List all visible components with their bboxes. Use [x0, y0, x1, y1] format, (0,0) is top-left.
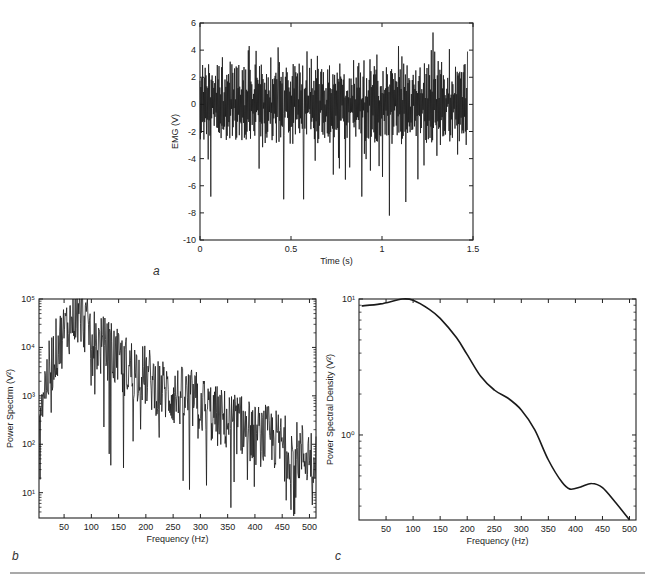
y-tick-label: 0 [191, 99, 196, 109]
x-tick-label: 200 [460, 524, 475, 534]
emg-signal-trace [200, 33, 468, 216]
x-tick-label: 300 [193, 522, 208, 532]
y-tick-label: -4 [188, 154, 196, 164]
x-tick-label: 350 [541, 524, 556, 534]
x-tick-label: 350 [220, 522, 235, 532]
x-tick-label: 1.5 [467, 244, 480, 254]
x-axis-title: Frequency (Hz) [466, 536, 528, 546]
x-tick-label: 150 [111, 522, 126, 532]
x-tick-label: 450 [595, 524, 610, 534]
x-tick-label: 150 [433, 524, 448, 534]
y-tick-label: 10³ [22, 391, 35, 401]
x-tick-label: 100 [84, 522, 99, 532]
y-axis-title: Power Spectral Density (V²) [325, 354, 335, 465]
x-tick-label: 200 [138, 522, 153, 532]
y-tick-label: 10⁰ [341, 430, 355, 440]
panel-label-b: b [12, 549, 19, 563]
chart-b-power-spectrum: 5010015020025030035040045050010¹10²10³10… [5, 294, 317, 563]
y-axis-title: EMG (V) [170, 114, 180, 149]
y-tick-label: 10¹ [342, 294, 355, 304]
x-tick-label: 250 [166, 522, 181, 532]
x-tick-label: 50 [381, 524, 391, 534]
chart-a-emg-time-series: 00.511.5-10-8-6-4-20246Time (s)EMG (V)a [153, 18, 479, 278]
y-tick-label: -2 [188, 127, 196, 137]
chart-c-power-spectral-density: 5010015020025030035040045050010⁰10¹Frequ… [325, 294, 637, 563]
x-tick-label: 400 [568, 524, 583, 534]
x-axis-title: Frequency (Hz) [146, 534, 208, 544]
x-tick-label: 1 [379, 244, 384, 254]
y-tick-label: 2 [191, 72, 196, 82]
y-tick-label: 4 [191, 45, 196, 55]
power-spectrum-trace [40, 299, 317, 516]
y-tick-label: 10⁴ [21, 342, 35, 352]
x-tick-label: 250 [487, 524, 502, 534]
y-tick-label: 10⁵ [21, 294, 35, 304]
x-tick-label: 500 [622, 524, 637, 534]
y-tick-label: -10 [183, 235, 196, 245]
y-tick-label: 6 [191, 18, 196, 28]
panel-label-a: a [153, 264, 160, 278]
x-tick-label: 0 [197, 244, 202, 254]
panel-label-c: c [335, 549, 341, 563]
psd-curve [362, 299, 630, 520]
y-tick-label: 10¹ [22, 488, 35, 498]
plot-frame [359, 299, 636, 520]
y-tick-label: -6 [188, 181, 196, 191]
x-axis-title: Time (s) [320, 256, 353, 266]
x-tick-label: 450 [275, 522, 290, 532]
x-tick-label: 300 [514, 524, 529, 534]
x-tick-label: 400 [247, 522, 262, 532]
x-tick-label: 50 [59, 522, 69, 532]
x-tick-label: 0.5 [285, 244, 298, 254]
y-tick-label: 10² [22, 439, 35, 449]
y-axis-title: Power Spectrm (V²) [5, 369, 15, 448]
x-tick-label: 500 [302, 522, 317, 532]
emg-figure: 00.511.5-10-8-6-4-20246Time (s)EMG (V)a … [0, 0, 657, 581]
y-tick-label: -8 [188, 208, 196, 218]
x-tick-label: 100 [406, 524, 421, 534]
